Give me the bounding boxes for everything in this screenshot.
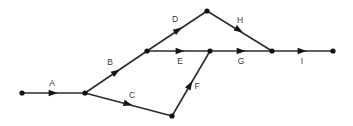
node-bottom	[169, 113, 174, 118]
arrow-marker-i-icon	[298, 48, 307, 54]
edge-label-d: D	[172, 14, 178, 24]
edge-label-a: A	[49, 78, 55, 88]
diagram-canvas: ABCDEFGHI	[0, 0, 353, 126]
arrow-marker-c-icon	[123, 100, 133, 108]
arrow-marker-a-icon	[49, 90, 58, 96]
node-apex	[204, 8, 209, 13]
edge-label-c: C	[129, 90, 135, 100]
node-junction-2	[144, 48, 149, 53]
edge-label-e: E	[177, 56, 183, 66]
arrow-marker-g-icon	[237, 48, 246, 54]
node-merge	[269, 48, 274, 53]
edge-label-h: H	[237, 15, 243, 25]
arrow-marker-b-icon	[111, 67, 122, 77]
edge-label-i: I	[301, 56, 303, 66]
node-start	[19, 90, 24, 95]
edge-label-b: B	[107, 57, 113, 67]
arrow-markers-layer	[49, 25, 307, 108]
graph-svg: ABCDEFGHI	[0, 0, 353, 126]
node-junction-1	[82, 90, 87, 95]
node-end	[330, 48, 335, 53]
edge-labels-layer: ABCDEFGHI	[49, 14, 303, 100]
edge-label-g: G	[238, 56, 245, 66]
arrow-marker-e-icon	[176, 48, 185, 54]
node-middle	[207, 48, 212, 53]
edge-label-f: F	[194, 81, 199, 91]
